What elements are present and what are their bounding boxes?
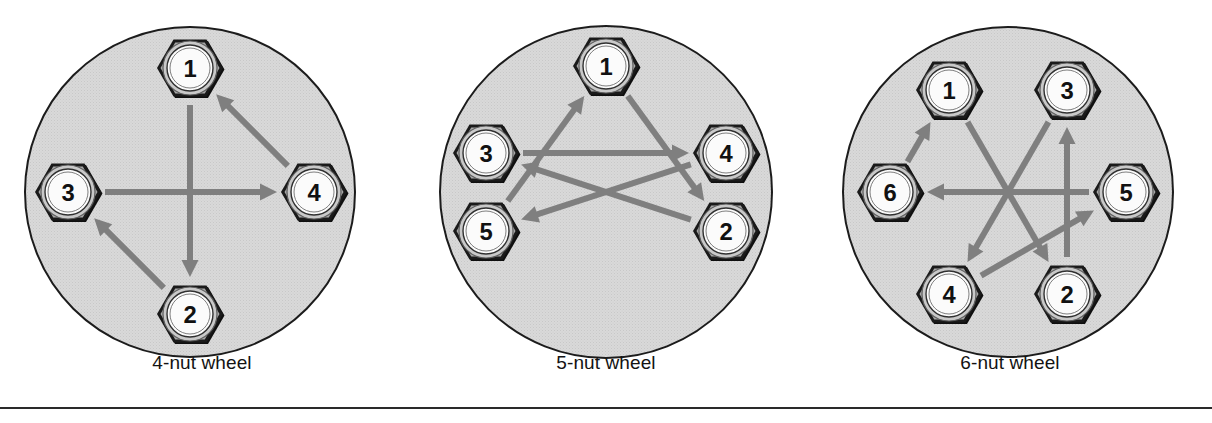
panel-caption: 5-nut wheel (404, 352, 808, 374)
nut-number: 2 (719, 218, 732, 245)
panel-caption: 4-nut wheel (0, 352, 404, 374)
panel-caption: 6-nut wheel (808, 352, 1212, 374)
nut-number: 3 (479, 140, 492, 167)
nut-number: 5 (1119, 179, 1132, 206)
nut-number: 2 (183, 301, 196, 328)
nut-number: 6 (883, 179, 896, 206)
nut-number: 4 (307, 179, 321, 206)
wheel-nut-sequence-figure: 1234 4-nut wheel 12345 5-nut wheel 12345… (0, 0, 1212, 423)
wheel-panel: 1234 4-nut wheel (0, 0, 404, 423)
wheel-diagram-6-nut: 123456 (808, 0, 1212, 380)
nut-number: 4 (942, 281, 956, 308)
bottom-divider (0, 407, 1212, 409)
nut-number: 2 (1060, 281, 1073, 308)
nut-number: 1 (599, 53, 612, 80)
wheel-diagram-5-nut: 12345 (404, 0, 808, 380)
nut-number: 4 (719, 140, 733, 167)
nut-number: 3 (1060, 77, 1073, 104)
wheel-diagram-4-nut: 1234 (0, 0, 404, 380)
nut-number: 3 (61, 179, 74, 206)
wheel-panel: 12345 5-nut wheel (404, 0, 808, 423)
nut-number: 1 (183, 55, 196, 82)
nut-number: 5 (479, 218, 492, 245)
wheel-panel: 123456 6-nut wheel (808, 0, 1212, 423)
nut-number: 1 (942, 77, 955, 104)
